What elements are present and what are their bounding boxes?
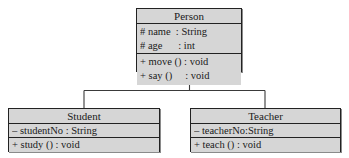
uml-operations-person: + move () : void + say () : void [137,54,241,85]
uml-operation: + say () : void [140,69,241,83]
uml-operation: + study () : void [12,138,159,152]
uml-attributes-teacher: – teacherNo:String [191,124,340,138]
uml-operation: + move () : void [140,55,241,69]
uml-attributes-student: – studentNo : String [9,124,159,138]
uml-class-person[interactable]: Person # name : String # age : int + mov… [136,8,242,72]
uml-class-name-person: Person [137,9,241,24]
uml-attribute: # name : String [140,25,241,39]
uml-operations-teacher: + teach () : void [191,138,340,152]
uml-class-diagram-canvas: Person # name : String # age : int + mov… [0,0,349,158]
uml-attributes-person: # name : String # age : int [137,24,241,54]
uml-class-name-teacher: Teacher [191,109,340,124]
uml-class-student[interactable]: Student – studentNo : String + study () … [8,108,160,152]
uml-attribute: – teacherNo:String [194,124,340,138]
uml-operation: + teach () : void [194,138,340,152]
uml-attribute: # age : int [140,39,241,53]
uml-class-name-student: Student [9,109,159,124]
uml-class-teacher[interactable]: Teacher – teacherNo:String + teach () : … [190,108,341,152]
uml-operations-student: + study () : void [9,138,159,152]
uml-attribute: – studentNo : String [12,124,159,138]
